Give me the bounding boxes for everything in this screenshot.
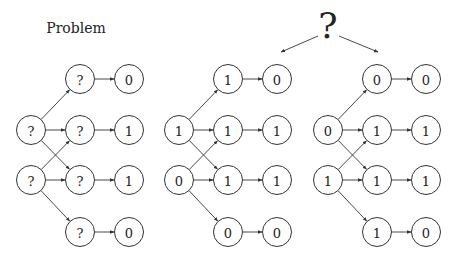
- node-label: 0: [373, 73, 381, 88]
- solution-a-input-node-0: 1: [165, 116, 194, 145]
- edges-layer: [41, 79, 411, 232]
- solution-b-output-node-2: 1: [412, 166, 441, 195]
- solution-b-hidden-node-3: 1: [363, 218, 392, 247]
- node-label: 0: [273, 73, 281, 88]
- solution-a-hidden-node-3: 0: [214, 218, 243, 247]
- problem-edge-in0-h0: [41, 90, 70, 120]
- solution-b-hidden-node-2: 1: [363, 166, 392, 195]
- solution-a-hidden-node-1: 1: [214, 116, 243, 145]
- problem-title: Problem: [46, 20, 106, 36]
- node-label: 1: [373, 124, 381, 139]
- node-label: 0: [125, 73, 133, 88]
- solution-a-hidden-node-2: 1: [214, 166, 243, 195]
- node-label: ?: [77, 174, 84, 189]
- solution-a-input-node-1: 0: [165, 166, 194, 195]
- problem-input-node-0: ?: [17, 116, 46, 145]
- question-mark: ?: [318, 5, 337, 46]
- node-label: 1: [224, 174, 232, 189]
- node-label: 1: [273, 174, 281, 189]
- node-label: 0: [273, 226, 281, 241]
- node-label: 1: [373, 226, 381, 241]
- problem-edge-in1-h3: [41, 191, 70, 222]
- solution-a-edge-in0-h0: [189, 90, 218, 120]
- node-label: ?: [28, 174, 35, 189]
- solution-b-output-node-1: 1: [412, 116, 441, 145]
- problem-hidden-node-3: ?: [66, 218, 95, 247]
- node-label: 0: [175, 174, 183, 189]
- solution-b-input-node-1: 1: [314, 166, 343, 195]
- node-label: 0: [422, 226, 430, 241]
- solution-b-hidden-node-0: 0: [363, 65, 392, 94]
- solution-a-output-node-1: 1: [263, 116, 292, 145]
- problem-output-node-1: 1: [115, 116, 144, 145]
- node-label: 1: [273, 124, 281, 139]
- problem-hidden-node-2: ?: [66, 166, 95, 195]
- node-label: 1: [422, 174, 430, 189]
- node-label: ?: [28, 124, 35, 139]
- solution-b-edge-in0-h0: [338, 90, 367, 120]
- node-label: 0: [422, 73, 430, 88]
- node-label: 1: [324, 174, 332, 189]
- node-label: 0: [324, 124, 332, 139]
- problem-output-node-2: 1: [115, 166, 144, 195]
- solution-a-hidden-node-0: 1: [214, 65, 243, 94]
- node-label: 0: [125, 226, 133, 241]
- network-diagram: Problem ? ??????011010111001100101110110: [0, 0, 458, 264]
- node-label: ?: [77, 226, 84, 241]
- problem-hidden-node-1: ?: [66, 116, 95, 145]
- node-label: 0: [224, 226, 232, 241]
- node-label: 1: [224, 73, 232, 88]
- problem-hidden-node-0: ?: [66, 65, 95, 94]
- node-label: 1: [224, 124, 232, 139]
- node-label: ?: [77, 73, 84, 88]
- solution-b-output-node-0: 0: [412, 65, 441, 94]
- node-label: 1: [125, 174, 133, 189]
- problem-input-node-1: ?: [17, 166, 46, 195]
- problem-output-node-0: 0: [115, 65, 144, 94]
- solution-b-hidden-node-1: 1: [363, 116, 392, 145]
- node-label: 1: [125, 124, 133, 139]
- arrow-to-solution-b: [339, 36, 378, 52]
- arrow-to-solution-a: [281, 36, 318, 52]
- solution-a-edge-in1-h3: [189, 191, 218, 222]
- node-label: 1: [175, 124, 183, 139]
- solution-a-output-node-2: 1: [263, 166, 292, 195]
- problem-output-node-3: 0: [115, 218, 144, 247]
- solution-a-output-node-0: 0: [263, 65, 292, 94]
- solution-a-output-node-3: 0: [263, 218, 292, 247]
- solution-b-edge-in1-h3: [338, 191, 367, 222]
- solution-b-input-node-0: 0: [314, 116, 343, 145]
- solution-b-output-node-3: 0: [412, 218, 441, 247]
- node-label: 1: [373, 174, 381, 189]
- node-label: 1: [422, 124, 430, 139]
- node-label: ?: [77, 124, 84, 139]
- nodes-layer: ??????011010111001100101110110: [17, 65, 441, 247]
